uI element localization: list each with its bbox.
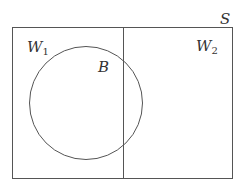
venn-diagram: S W1 W2 B [0,0,244,186]
region-w1-label: W1 [27,38,49,57]
set-b-label: B [97,58,109,76]
set-b-circle [30,47,143,160]
universe-label: S [220,10,230,28]
region-w2-label: W2 [196,37,218,56]
